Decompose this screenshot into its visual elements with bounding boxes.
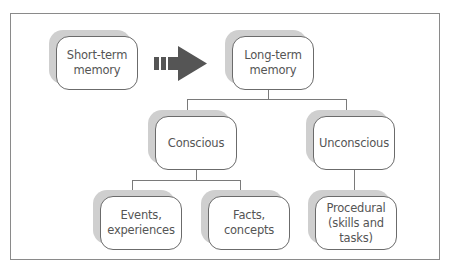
connector-longterm-stem [268, 90, 269, 99]
node-unconscious: Unconscious [313, 116, 395, 170]
node-label: Events, experiences [107, 208, 175, 238]
node-events-experiences: Events, experiences [100, 196, 182, 250]
node-box: Long-term memory [232, 36, 314, 90]
node-label: Short-term memory [67, 48, 127, 78]
node-box: Facts, concepts [208, 196, 290, 250]
node-conscious: Conscious [155, 116, 237, 170]
node-box: Events, experiences [100, 196, 182, 250]
node-box: Short-term memory [56, 36, 138, 90]
connector-to-events [132, 180, 133, 190]
connector-to-conscious [187, 99, 188, 110]
connector-longterm-horizontal [187, 99, 347, 100]
node-box: Procedural (skills and tasks) [315, 196, 397, 250]
node-label: Procedural (skills and tasks) [326, 201, 385, 246]
node-box: Conscious [155, 116, 237, 170]
node-label: Conscious [168, 136, 224, 151]
arrow-dash-2 [161, 57, 166, 70]
connector-to-unconscious [346, 99, 347, 110]
node-label: Facts, concepts [224, 208, 274, 238]
node-label: Unconscious [319, 136, 389, 151]
node-long-term-memory: Long-term memory [232, 36, 314, 90]
connector-to-facts [240, 180, 241, 190]
node-label: Long-term memory [244, 48, 302, 78]
node-short-term-memory: Short-term memory [56, 36, 138, 90]
node-box: Unconscious [313, 116, 395, 170]
connector-conscious-stem [196, 169, 197, 180]
arrow-dash-1 [154, 57, 159, 70]
node-facts-concepts: Facts, concepts [208, 196, 290, 250]
connector-conscious-horizontal [132, 180, 241, 181]
node-procedural: Procedural (skills and tasks) [315, 196, 397, 250]
transfer-arrow-icon [150, 42, 210, 86]
arrow-head [168, 46, 207, 81]
connector-unconscious-to-procedural [354, 169, 355, 190]
